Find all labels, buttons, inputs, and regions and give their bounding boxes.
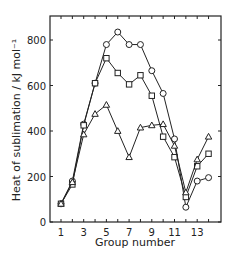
heat-of-sublimation-chart: 1357911130200400600800 Group number Heat…: [0, 0, 233, 262]
y-tick-label: 0: [40, 217, 46, 228]
square-marker: [126, 82, 131, 87]
circle-marker: [149, 68, 155, 74]
x-axis-label: Group number: [95, 236, 175, 249]
triangle-marker: [205, 133, 211, 139]
plot-frame: [50, 16, 221, 222]
circle-marker: [160, 90, 166, 96]
axes: 1357911130200400600800: [27, 16, 221, 238]
square-marker: [104, 56, 109, 61]
circle-marker: [137, 42, 143, 48]
circle-marker: [126, 42, 132, 48]
y-tick-label: 800: [27, 35, 46, 46]
triangle-marker: [103, 102, 109, 108]
square-marker: [160, 134, 165, 139]
y-tick-label: 400: [27, 126, 46, 137]
circle-marker: [115, 29, 121, 35]
triangle-marker: [92, 111, 98, 117]
y-axis-label: Heat of sublimation / kJ mol⁻¹: [10, 39, 23, 202]
square-marker: [92, 81, 97, 86]
x-tick-label: 3: [81, 227, 87, 238]
x-tick-label: 1: [58, 227, 64, 238]
square-marker: [81, 123, 86, 128]
square-marker: [206, 151, 211, 156]
x-tick-label: 13: [191, 227, 204, 238]
triangle-marker: [194, 156, 200, 162]
triangle-marker: [160, 121, 166, 127]
triangle-marker: [126, 154, 132, 160]
circle-marker: [103, 42, 109, 48]
triangle-marker: [171, 142, 177, 148]
square-marker: [138, 73, 143, 78]
circle-marker: [183, 204, 189, 210]
series-circles: [58, 29, 212, 210]
y-tick-label: 200: [27, 172, 46, 183]
square-marker: [115, 70, 120, 75]
circle-marker: [206, 175, 212, 181]
square-marker: [149, 93, 154, 98]
y-tick-label: 600: [27, 81, 46, 92]
circle-marker: [194, 178, 200, 184]
data-series: [58, 29, 212, 210]
triangle-marker: [115, 128, 121, 134]
